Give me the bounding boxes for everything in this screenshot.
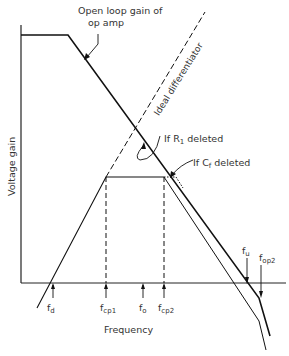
cf-deleted-dotted-line	[164, 177, 183, 188]
r1-deleted-label: If R1 deleted	[164, 134, 223, 146]
fop2-label: fop2	[259, 253, 276, 265]
open-loop-leader	[87, 34, 98, 57]
open-loop-label-line1: Open loop gain of	[78, 6, 162, 16]
open-loop-label-line2: op amp	[88, 18, 124, 28]
fcp2-label: fcp2	[158, 303, 174, 315]
closed-loop-response-curve	[37, 177, 164, 308]
fcp1-label: fcp1	[100, 303, 116, 315]
ideal-differentiator-line	[106, 12, 205, 177]
fd-label: fd	[47, 303, 55, 315]
y-axis-label: Voltage gain	[6, 137, 17, 196]
fo-label: fo	[139, 303, 147, 315]
open-loop-gain-curve	[21, 35, 270, 336]
cf-deleted-label: If Cf deleted	[193, 158, 250, 170]
cf-deleted-leader	[172, 160, 193, 175]
fu-label: fu	[242, 246, 250, 258]
x-axis-label: Frequency	[104, 325, 153, 335]
closed-loop-rolloff-curve	[164, 177, 266, 350]
